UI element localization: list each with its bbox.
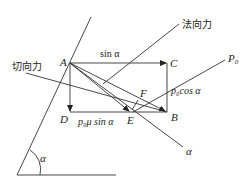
force-diagram: α 切向力 法向力 α P0 A C B D E F sin α p₀cos α… (0, 0, 251, 187)
point-B: B (171, 111, 178, 123)
sin-alpha-label: sin α (100, 48, 120, 59)
alpha-ray (70, 63, 183, 147)
point-D: D (59, 113, 68, 125)
point-F: F (139, 87, 147, 99)
p0-mu-sin-alpha-label: p₀μ sin α (77, 116, 114, 127)
point-C: C (170, 57, 178, 69)
point-E: E (126, 114, 134, 126)
tangential-force-label: 切向力 (12, 60, 42, 72)
p0-label: P0 (227, 52, 239, 66)
p0-cos-alpha-label: p₀cos α (170, 85, 201, 96)
point-A: A (59, 56, 67, 68)
incline-line (17, 17, 91, 175)
vector-A-B (70, 63, 165, 111)
normal-force-label: 法向力 (182, 18, 212, 30)
angle-alpha-ray: α (186, 145, 192, 157)
segment-E-F (132, 100, 138, 110)
angle-alpha-bottom: α (40, 152, 46, 164)
